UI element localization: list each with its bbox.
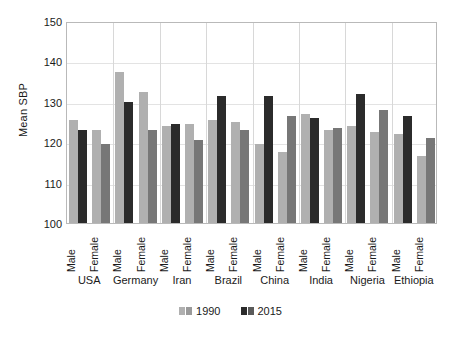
x-label-india-female: Female: [320, 226, 332, 272]
bar-ethiopia-female-1990: [417, 156, 426, 223]
sex-group-iran-female: [183, 23, 206, 223]
country-group-usa: [67, 23, 113, 223]
x-label-nigeria-female: Female: [366, 226, 378, 272]
x-label-ethiopia-female: Female: [413, 226, 425, 272]
y-axis-tick-labels: 150140130120110100: [30, 0, 62, 338]
sex-group-usa-female: [90, 23, 113, 223]
country-group-brazil: [206, 23, 252, 223]
bar-ethiopia-female-2015: [426, 138, 435, 223]
sex-group-china-male: [253, 23, 276, 223]
country-group-ethiopia: [392, 23, 438, 223]
bar-india-female-1990: [324, 130, 333, 223]
y-tick-label-120: 120: [30, 137, 62, 149]
group-separator: [345, 23, 346, 223]
group-separator: [392, 23, 393, 223]
bar-usa-male-1990: [69, 120, 78, 223]
bar-chart: Mean SBP 150140130120110100 MaleFemaleMa…: [0, 0, 461, 338]
bar-brazil-male-2015: [217, 96, 226, 223]
sex-group-ethiopia-female: [415, 23, 438, 223]
bar-nigeria-male-1990: [347, 126, 356, 223]
bar-nigeria-female-1990: [370, 132, 379, 223]
x-axis-country-labels: USAGermanyIranBrazilChinaIndiaNigeriaEth…: [66, 274, 437, 290]
legend-swatch-icon-2015: [241, 307, 254, 315]
x-axis-sex-labels: MaleFemaleMaleFemaleMaleFemaleMaleFemale…: [66, 226, 437, 272]
legend-item-2015: 2015: [241, 305, 282, 317]
bar-usa-female-2015: [101, 144, 110, 223]
sex-group-india-female: [322, 23, 345, 223]
bar-china-female-2015: [287, 116, 296, 223]
sex-group-india-male: [299, 23, 322, 223]
sex-group-germany-female: [137, 23, 160, 223]
group-separator: [253, 23, 254, 223]
sex-group-ethiopia-male: [392, 23, 415, 223]
bar-germany-female-2015: [148, 130, 157, 223]
x-country-label-germany: Germany: [113, 274, 158, 286]
x-country-label-usa: USA: [78, 274, 101, 286]
country-group-india: [299, 23, 345, 223]
x-country-label-ethiopia: Ethiopia: [394, 274, 434, 286]
x-label-india-male: Male: [297, 226, 309, 272]
y-tick-label-110: 110: [30, 178, 62, 190]
legend-label-1990: 1990: [196, 305, 220, 317]
x-label-usa-female: Female: [88, 226, 100, 272]
bar-germany-male-2015: [124, 102, 133, 223]
bar-india-male-2015: [310, 118, 319, 223]
y-tick-label-150: 150: [30, 16, 62, 28]
bar-nigeria-female-2015: [379, 110, 388, 223]
bar-india-female-2015: [333, 128, 342, 223]
bar-iran-male-1990: [162, 126, 171, 223]
bar-india-male-1990: [301, 114, 310, 223]
x-label-china-male: Male: [251, 226, 263, 272]
bar-china-male-1990: [255, 144, 264, 223]
bar-usa-female-1990: [92, 130, 101, 223]
y-tick-label-100: 100: [30, 218, 62, 230]
country-group-germany: [113, 23, 159, 223]
chart-legend: 19902015: [0, 305, 461, 317]
x-country-label-brazil: Brazil: [215, 274, 243, 286]
group-separator: [113, 23, 114, 223]
sex-group-nigeria-female: [368, 23, 391, 223]
bar-nigeria-male-2015: [356, 94, 365, 223]
bar-germany-male-1990: [115, 72, 124, 224]
bar-iran-female-1990: [185, 124, 194, 223]
x-label-iran-male: Male: [158, 226, 170, 272]
x-label-iran-female: Female: [181, 226, 193, 272]
x-label-china-female: Female: [274, 226, 286, 272]
x-label-ethiopia-male: Male: [390, 226, 402, 272]
x-label-usa-male: Male: [65, 226, 77, 272]
group-separator: [206, 23, 207, 223]
bar-brazil-female-2015: [240, 130, 249, 223]
bar-iran-male-2015: [171, 124, 180, 223]
sex-group-nigeria-male: [345, 23, 368, 223]
sex-group-germany-male: [113, 23, 136, 223]
plot-area: [66, 22, 437, 224]
country-group-nigeria: [345, 23, 391, 223]
bar-germany-female-1990: [139, 92, 148, 223]
bar-brazil-male-1990: [208, 120, 217, 223]
bar-iran-female-2015: [194, 140, 203, 223]
sex-group-usa-male: [67, 23, 90, 223]
bar-ethiopia-male-2015: [403, 116, 412, 223]
bar-brazil-female-1990: [231, 122, 240, 223]
group-separator: [299, 23, 300, 223]
y-tick-label-130: 130: [30, 97, 62, 109]
bar-china-female-1990: [278, 152, 287, 223]
x-country-label-iran: Iran: [172, 274, 191, 286]
country-group-iran: [160, 23, 206, 223]
country-group-china: [253, 23, 299, 223]
legend-swatch-icon-1990: [179, 307, 192, 315]
sex-group-china-female: [276, 23, 299, 223]
bar-usa-male-2015: [78, 130, 87, 223]
x-country-label-nigeria: Nigeria: [350, 274, 385, 286]
x-label-nigeria-male: Male: [343, 226, 355, 272]
bar-china-male-2015: [264, 96, 273, 223]
group-separator: [160, 23, 161, 223]
bar-ethiopia-male-1990: [394, 134, 403, 223]
x-country-label-china: China: [260, 274, 289, 286]
y-tick-label-140: 140: [30, 56, 62, 68]
x-label-brazil-female: Female: [227, 226, 239, 272]
x-label-germany-male: Male: [111, 226, 123, 272]
legend-item-1990: 1990: [179, 305, 220, 317]
x-label-germany-female: Female: [135, 226, 147, 272]
sex-group-brazil-female: [229, 23, 252, 223]
